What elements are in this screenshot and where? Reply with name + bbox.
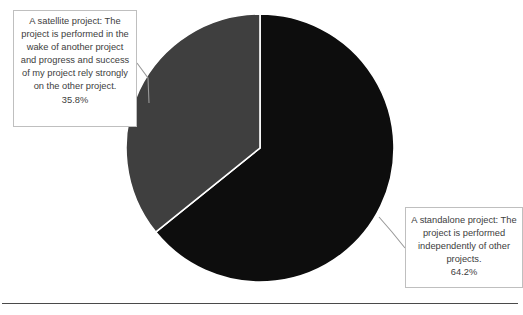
callout-satellite-text: A satellite project: The project is perf… <box>18 15 132 94</box>
leader-line-standalone <box>379 217 405 248</box>
callout-standalone[interactable]: A standalone project: The project is per… <box>405 207 523 288</box>
callout-satellite[interactable]: A satellite project: The project is perf… <box>13 10 137 127</box>
callout-standalone-text: A standalone project: The project is per… <box>410 214 518 266</box>
callout-satellite-value: 35.8% <box>18 94 132 107</box>
pie-slices <box>126 14 394 282</box>
callout-standalone-value: 64.2% <box>410 266 518 279</box>
bottom-rule <box>2 303 518 304</box>
